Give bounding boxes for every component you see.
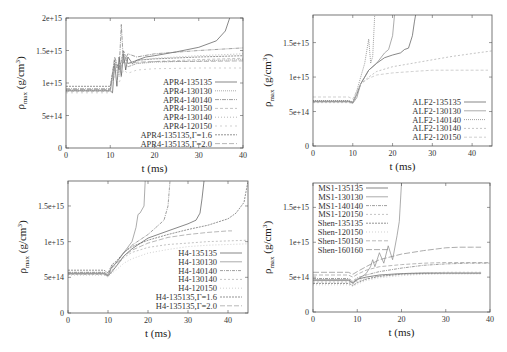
series-line [68, 240, 248, 276]
legend-label: H4-135135,Γ=2.0 [156, 301, 217, 311]
x-tick-label: 10 [106, 151, 114, 160]
plot-frame [66, 18, 243, 148]
x-tick-label: 0 [66, 316, 70, 325]
legend-label: ALF2-120150 [412, 132, 461, 142]
x-tick-label: 30 [428, 149, 436, 158]
y-axis-label: ρmax (g/cm3) [14, 56, 29, 109]
x-tick-label: 20 [151, 151, 159, 160]
y-axis-label: ρmax (g/cm3) [261, 54, 276, 107]
y-tick-label: 0 [60, 309, 64, 318]
x-tick-label: 0 [311, 315, 315, 324]
plot-frame [313, 15, 492, 146]
series-line [313, 51, 492, 103]
y-tick-label: 5e+14 [289, 273, 309, 282]
y-tick-label: 1.5e+15 [38, 202, 64, 211]
x-axis-label: t (ms) [390, 160, 416, 173]
x-tick-label: 20 [144, 316, 152, 325]
series-line [313, 15, 375, 102]
x-tick-label: 40 [486, 315, 494, 324]
y-tick-label: 5e+14 [44, 273, 64, 282]
x-axis-label: t (ms) [142, 162, 168, 175]
x-tick-label: 10 [353, 315, 361, 324]
series-line [68, 181, 145, 275]
x-axis-label: t (ms) [145, 327, 171, 340]
y-tick-label: 0 [305, 308, 309, 317]
x-tick-label: 40 [239, 151, 247, 160]
x-tick-label: 40 [224, 316, 232, 325]
y-tick-label: 5e+14 [42, 112, 62, 121]
y-tick-label: 1e+15 [289, 238, 309, 247]
x-tick-label: 10 [104, 316, 112, 325]
y-axis-label: ρmax (g/cm3) [16, 220, 31, 273]
legend: H4-135135H4-130130H4-140140H4-130140H4-1… [156, 248, 242, 311]
series-line [66, 54, 243, 90]
y-tick-label: 0 [305, 142, 309, 151]
y-tick-label: 1.5e+15 [36, 47, 62, 56]
x-tick-label: 20 [389, 149, 397, 158]
legend-label: Shen-160160 [318, 245, 363, 255]
x-tick-label: 30 [184, 316, 192, 325]
series-group [68, 181, 248, 277]
y-tick-label: 1e+15 [42, 79, 62, 88]
legend: MS1-135135MS1-130130MS1-140140MS1-120150… [318, 183, 388, 255]
series-group [66, 18, 243, 93]
x-tick-label: 20 [398, 315, 406, 324]
y-tick-label: 2e+15 [42, 14, 62, 23]
y-tick-label: 0 [58, 144, 62, 153]
panel-apr4: 01020304005e+141e+151.5e+152e+15t (ms)ρm… [14, 14, 247, 175]
x-tick-label: 0 [64, 151, 68, 160]
series-line [313, 15, 416, 103]
x-axis-label: t (ms) [389, 326, 415, 339]
y-tick-label: 1e+15 [44, 238, 64, 247]
series-line [313, 273, 481, 283]
figure: 01020304005e+141e+151.5e+152e+15t (ms)ρm… [0, 0, 507, 352]
legend: APR4-135135APR4-130130APR4-140140APR4-13… [140, 77, 237, 149]
x-tick-label: 10 [349, 149, 357, 158]
y-axis-label: ρmax (g/cm3) [261, 221, 276, 274]
series-line [68, 181, 170, 275]
x-tick-label: 30 [442, 315, 450, 324]
panel-ms1-shen: 01020304005e+141e+151.5e+15t (ms)ρmax (g… [261, 183, 494, 339]
series-line [68, 181, 248, 273]
y-tick-label: 1.5e+15 [283, 203, 309, 212]
x-tick-label: 0 [311, 149, 315, 158]
panel-alf2: 01020304005e+141e+151.5e+15t (ms)ρmax (g… [261, 15, 492, 173]
series-line [66, 60, 243, 91]
series-line [313, 263, 490, 278]
x-tick-label: 30 [195, 151, 203, 160]
x-tick-label: 40 [468, 149, 476, 158]
y-tick-label: 5e+14 [289, 108, 309, 117]
series-line [66, 58, 243, 91]
y-tick-label: 1.5e+15 [283, 39, 309, 48]
panel-h4: 01020304005e+141e+151.5e+15t (ms)ρmax (g… [16, 181, 248, 340]
legend-label: APR4-135135,Γ=2.0 [140, 139, 212, 149]
series-group [313, 15, 492, 103]
y-tick-label: 1e+15 [289, 73, 309, 82]
series-line [313, 70, 488, 99]
legend: ALF2-135135ALF2-130130ALF2-140140ALF2-13… [412, 97, 486, 142]
